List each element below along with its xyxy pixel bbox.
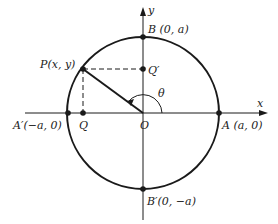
point-b — [140, 34, 146, 40]
radius-op — [83, 69, 143, 113]
point-a — [216, 110, 222, 116]
label-theta: θ — [158, 87, 165, 100]
label-q: Q — [79, 119, 88, 132]
label-b-prime: B′(0, −a) — [146, 195, 196, 208]
point-q-prime — [140, 66, 146, 72]
label-p: P(x, y) — [39, 58, 75, 71]
label-o: O — [140, 119, 149, 132]
label-x-axis: x — [257, 97, 264, 110]
y-axis-arrow-icon — [140, 7, 146, 16]
label-q-prime: Q′ — [148, 64, 160, 77]
x-axis-arrow-icon — [259, 110, 268, 116]
point-a-prime — [65, 110, 71, 116]
point-b-prime — [140, 186, 146, 192]
label-a: A (a, 0) — [221, 119, 263, 132]
label-y-axis: y — [147, 4, 155, 17]
angle-arc — [128, 95, 162, 113]
label-b: B (0, a) — [147, 23, 189, 36]
point-p — [80, 66, 86, 72]
unit-circle-diagram: y x B (0, a) Q′ θ P(x, y) A′(−a, 0) Q O … — [0, 0, 278, 224]
point-q — [80, 110, 86, 116]
label-a-prime: A′(−a, 0) — [12, 119, 62, 132]
